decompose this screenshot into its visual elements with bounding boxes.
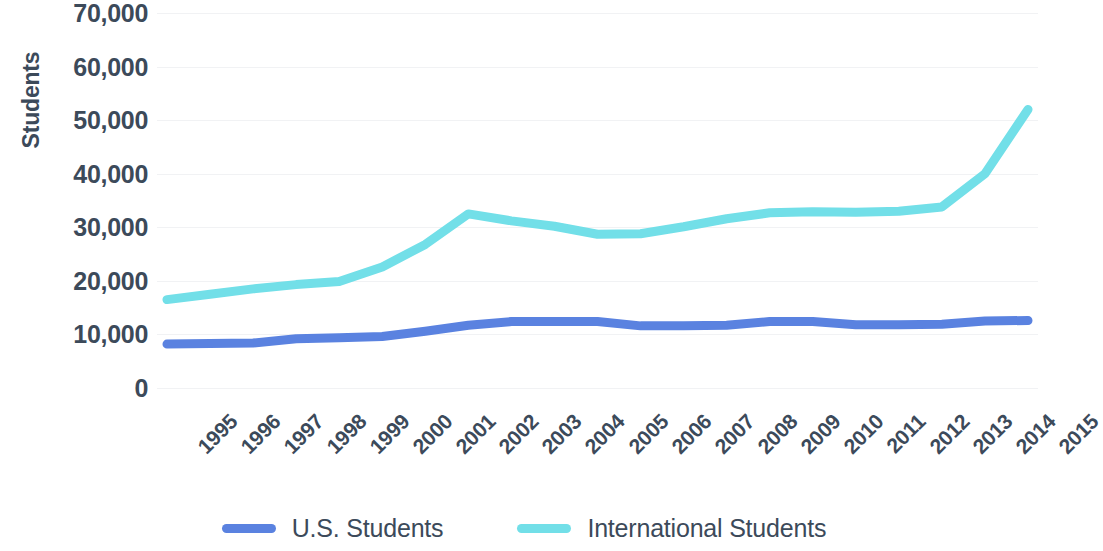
y-axis-tick-label: 70,000 (73, 0, 148, 28)
y-axis-tick-label: 20,000 (73, 266, 148, 295)
y-axis-tick-label: 30,000 (73, 213, 148, 242)
x-axis-tick-label: 2011 (881, 409, 930, 458)
x-axis-tick-label: 2003 (537, 409, 586, 458)
series-line (167, 109, 1028, 299)
legend-swatch-us-students (222, 524, 276, 533)
x-axis-tick-label: 2005 (624, 409, 673, 458)
y-axis-tick-label: 10,000 (73, 320, 148, 349)
y-axis-tick-label: 60,000 (73, 52, 148, 81)
x-axis-tick-labels: 1995199619971998199920002001200220032004… (157, 400, 1038, 492)
x-axis-tick-label: 1996 (236, 409, 285, 458)
legend-swatch-international-students (517, 524, 571, 533)
x-axis-tick-label: 2002 (494, 409, 543, 458)
y-axis-tick-label: 50,000 (73, 106, 148, 135)
y-axis-tick-label: 40,000 (73, 159, 148, 188)
series-lines (157, 0, 1038, 400)
x-axis-tick-label: 1995 (193, 409, 242, 458)
x-axis-tick-label: 2010 (839, 409, 888, 458)
x-axis-tick-label: 1998 (322, 409, 371, 458)
x-axis-tick-label: 2000 (408, 409, 457, 458)
x-axis-tick-label: 1999 (365, 409, 414, 458)
legend-item[interactable]: U.S. Students (222, 514, 444, 543)
y-axis-tick-labels: 010,00020,00030,00040,00050,00060,00070,… (38, 0, 148, 400)
x-axis-tick-label: 2001 (451, 409, 500, 458)
x-axis-tick-label: 2004 (580, 409, 629, 458)
x-axis-tick-label: 2015 (1054, 409, 1103, 458)
legend-label: U.S. Students (292, 514, 444, 543)
chart-legend: U.S. StudentsInternational Students (0, 505, 1048, 551)
x-axis-tick-label: 2007 (710, 409, 759, 458)
x-axis-tick-label: 2009 (796, 409, 845, 458)
x-axis-tick-label: 2008 (753, 409, 802, 458)
series-line (167, 321, 1028, 345)
y-axis-tick-label: 0 (134, 374, 148, 403)
x-axis-tick-label: 2006 (667, 409, 716, 458)
x-axis-tick-label: 2012 (925, 409, 974, 458)
plot-area (157, 0, 1038, 400)
legend-label: International Students (587, 514, 826, 543)
x-axis-tick-label: 1997 (279, 409, 328, 458)
x-axis-tick-label: 2014 (1011, 409, 1060, 458)
legend-item[interactable]: International Students (517, 514, 826, 543)
x-axis-tick-label: 2013 (968, 409, 1017, 458)
